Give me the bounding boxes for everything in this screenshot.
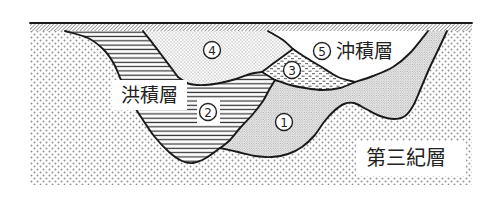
layer-4-marker-number: 4: [208, 44, 216, 58]
geologic-cross-section: 洪積層 2 4 3 5 沖積層 1 第三紀層: [0, 0, 499, 201]
layer-3-marker: 3: [284, 62, 301, 79]
tertiary-label-text: 第三紀層: [366, 146, 446, 170]
diluvium-label: 洪積層: [112, 80, 187, 110]
diluvium-label-text: 洪積層: [121, 84, 178, 106]
surface-hatched-band: [30, 23, 472, 31]
alluvium-label-text: 沖積層: [336, 40, 393, 62]
layer-1-marker: 1: [276, 114, 293, 131]
layer-2-marker-number: 2: [204, 106, 212, 120]
layer-2-marker: 2: [197, 99, 220, 125]
tertiary-label: 第三紀層: [356, 141, 466, 176]
layer-3-marker-number: 3: [288, 64, 296, 78]
layer-5-marker-number: 5: [318, 45, 326, 59]
layer-4-marker: 4: [204, 42, 221, 59]
layer-5-marker: 5: [314, 43, 331, 60]
layer-1-marker-number: 1: [280, 116, 288, 130]
